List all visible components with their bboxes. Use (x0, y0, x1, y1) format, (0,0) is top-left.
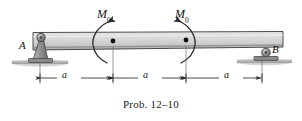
moment-application-point-right (184, 38, 189, 43)
support-label-a: A (19, 40, 26, 51)
dimension-label-2: a (143, 70, 148, 80)
dimension-label-1: a (62, 70, 67, 80)
moment-label-left: M0 (97, 8, 111, 23)
dimension-label-3: a (224, 70, 229, 80)
beam (33, 32, 283, 51)
support-label-b: B (272, 44, 279, 55)
beam-problem-figure: M0 M0 A B a a a Prob. 12–10 (0, 0, 302, 121)
figure-caption: Prob. 12–10 (0, 98, 302, 110)
moment-label-right: M0 (175, 8, 189, 23)
moment-application-point-left (111, 39, 116, 44)
